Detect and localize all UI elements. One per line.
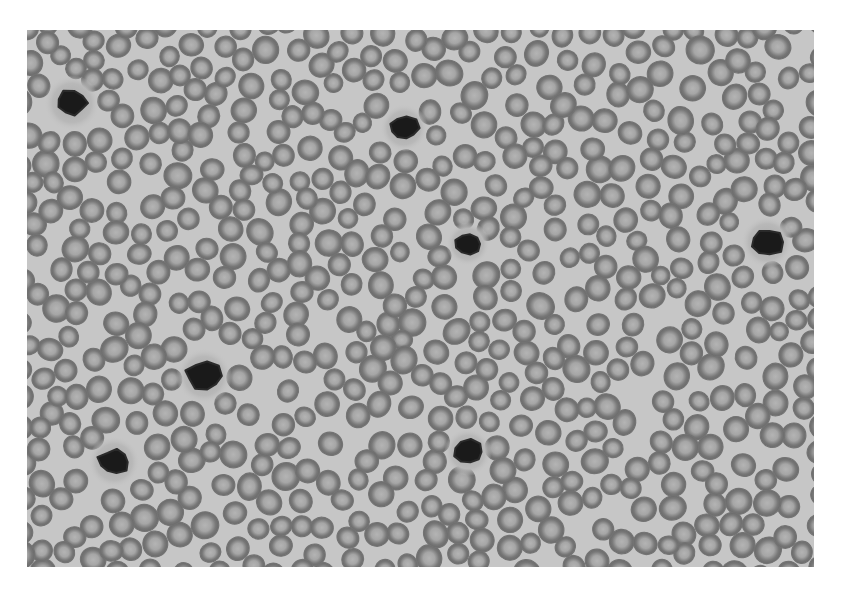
red-blood-cell xyxy=(651,266,670,285)
red-blood-cell xyxy=(233,143,256,168)
red-blood-cell xyxy=(131,223,152,245)
red-blood-cell xyxy=(513,320,535,342)
smear-canvas xyxy=(27,30,814,567)
red-blood-cell xyxy=(272,414,294,436)
red-blood-cell xyxy=(63,131,87,157)
blood-smear-micrograph xyxy=(27,30,814,567)
red-blood-cell xyxy=(290,281,313,303)
red-blood-cell xyxy=(324,73,344,93)
white-blood-cell-4 xyxy=(741,216,793,268)
red-blood-cell xyxy=(557,158,578,179)
red-blood-cell xyxy=(494,47,516,68)
red-blood-cell xyxy=(723,416,749,442)
red-blood-cell xyxy=(252,36,279,64)
red-blood-cell xyxy=(62,157,88,183)
white-blood-cell-5 xyxy=(176,348,232,404)
white-blood-cell-7 xyxy=(444,428,492,476)
red-blood-cell xyxy=(188,291,211,313)
red-blood-cell xyxy=(125,322,151,348)
red-blood-cell xyxy=(126,411,148,434)
red-blood-cell xyxy=(428,406,453,431)
red-blood-cell xyxy=(111,104,134,127)
nucleus xyxy=(752,231,783,254)
red-blood-cell xyxy=(667,278,687,299)
white-blood-cell-6 xyxy=(88,436,140,488)
red-blood-cell xyxy=(233,48,254,71)
red-blood-cell xyxy=(107,170,132,195)
red-blood-cell xyxy=(583,420,607,442)
red-blood-cell xyxy=(200,158,224,180)
red-blood-cell xyxy=(490,390,511,411)
white-blood-cell-1 xyxy=(44,75,100,131)
white-blood-cell-2 xyxy=(380,104,428,152)
white-blood-cell-3 xyxy=(446,222,490,266)
red-blood-cell xyxy=(755,469,777,491)
red-blood-cell xyxy=(65,384,89,410)
red-blood-cell xyxy=(583,340,608,365)
